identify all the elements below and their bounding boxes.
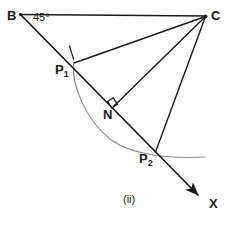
point-label-B: B bbox=[7, 9, 16, 22]
geometry-figure: B C P1 N P2 X 45° (ii) bbox=[0, 0, 230, 227]
construction-arc bbox=[73, 64, 205, 157]
point-label-P1: P1 bbox=[55, 63, 69, 76]
figure-canvas bbox=[0, 0, 230, 227]
point-label-C: C bbox=[211, 9, 220, 22]
tick-mark-P1 bbox=[70, 46, 74, 59]
segment-CN bbox=[114, 17, 206, 107]
segment-CP2 bbox=[156, 17, 206, 153]
point-label-P2-subscript: 2 bbox=[148, 158, 153, 168]
vertex-dot-C bbox=[204, 15, 208, 19]
point-label-P1-base: P bbox=[55, 62, 64, 77]
vertex-dot-B bbox=[19, 13, 22, 16]
point-label-P2: P2 bbox=[139, 152, 153, 165]
point-label-N: N bbox=[103, 108, 112, 121]
point-label-P1-subscript: 1 bbox=[64, 69, 69, 79]
angle-label-45deg: 45° bbox=[33, 12, 50, 23]
segment-CP1 bbox=[74, 17, 206, 64]
point-label-X: X bbox=[209, 197, 218, 210]
figure-caption: (ii) bbox=[123, 194, 135, 205]
point-label-P2-base: P bbox=[139, 151, 148, 166]
